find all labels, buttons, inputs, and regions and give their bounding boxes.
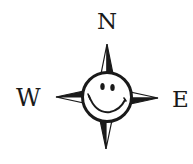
south-point-icon [100, 120, 112, 149]
compass-star-icon [0, 0, 193, 164]
north-point-icon [101, 44, 113, 74]
right-eye-icon [110, 84, 114, 91]
compass-rose: N W E [0, 0, 193, 164]
east-point-icon [130, 92, 158, 104]
smiley-face-icon [83, 73, 132, 122]
left-eye-icon [100, 83, 104, 90]
west-point-icon [56, 91, 84, 103]
